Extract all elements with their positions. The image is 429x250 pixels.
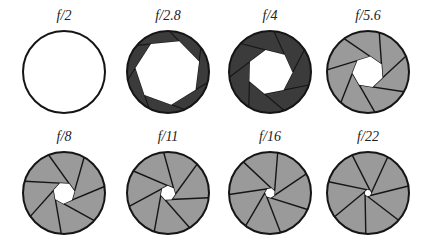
blade-edge (365, 192, 366, 234)
f-number-label: f/22 (357, 129, 379, 144)
f-number-label: f/5.6 (355, 8, 380, 23)
f-number-label: f/4 (263, 8, 278, 23)
f-number-label: f/2 (57, 8, 72, 23)
aperture-f2: f/2 (23, 8, 105, 113)
aperture-f2_8: f/2.8 (127, 8, 209, 113)
f-number-label: f/16 (259, 129, 281, 144)
f-number-label: f/2.8 (155, 8, 180, 23)
aperture-f4: f/4 (229, 8, 311, 113)
aperture-f5_6: f/5.6 (327, 8, 409, 113)
aperture-f8: f/8 (23, 129, 105, 234)
aperture-f22: f/22 (327, 129, 409, 234)
f-number-label: f/8 (57, 129, 72, 144)
aperture-diagram: f/2f/2.8f/4f/5.6f/8f/11f/16f/22 (0, 0, 429, 250)
f-number-label: f/11 (158, 129, 179, 144)
aperture-f16: f/16 (229, 129, 311, 234)
aperture-f11: f/11 (127, 129, 209, 234)
